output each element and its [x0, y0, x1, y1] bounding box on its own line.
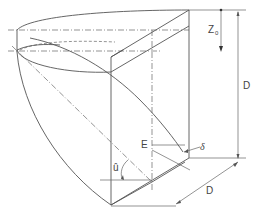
- z0-arrowhead: [219, 46, 223, 52]
- angle-arc: [121, 160, 128, 179]
- front-ellipse-top: [17, 45, 60, 50]
- front-ellipse-curve: [17, 50, 111, 72]
- prism-top-inner-diag: [111, 26, 189, 72]
- d-bottom-arrow-left: [176, 200, 181, 204]
- d-bottom-arrow-right: [233, 162, 238, 167]
- z0-label: Z: [208, 24, 214, 35]
- e-label: E: [141, 139, 148, 150]
- top-outer-curve: [17, 10, 189, 30]
- bottom-inner-diagonal: [111, 182, 152, 205]
- d-vertical-arrow-top: [237, 11, 240, 16]
- z0-subscript: 0: [215, 30, 219, 36]
- e-diagonal-line: [152, 150, 190, 170]
- delta-label: δ: [200, 141, 205, 152]
- delta-arrowhead: [184, 149, 188, 153]
- bottom-inner-diagonal-2: [152, 162, 185, 182]
- diagonal-center-line: [12, 46, 152, 182]
- d-vertical-label: D: [243, 80, 250, 91]
- z0-origin-dot: [220, 9, 223, 12]
- d-bottom-label: D: [206, 185, 213, 196]
- left-outer-curve: [17, 30, 111, 205]
- angle-label: û: [113, 162, 119, 173]
- diagram-canvas: Z 0 D E δ û D: [0, 0, 256, 213]
- d-bottom-dimension: [176, 162, 238, 204]
- helix-curve: [30, 38, 183, 152]
